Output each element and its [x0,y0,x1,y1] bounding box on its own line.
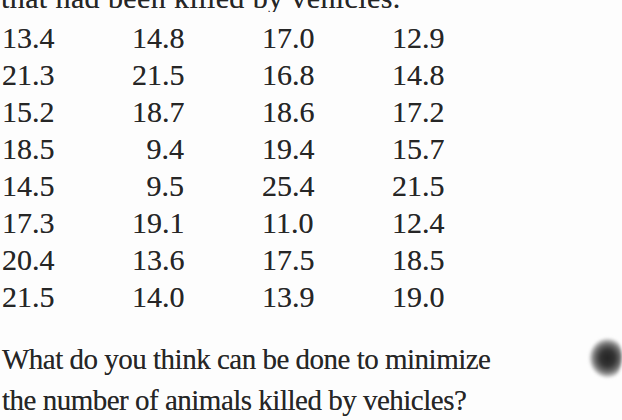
table-cell: 21.5 [392,167,522,204]
question-paragraph: What do you think can be done to minimiz… [2,339,491,420]
table-cell: 18.5 [392,241,522,278]
table-cell: 18.7 [132,93,262,130]
table-cell: 21.3 [2,56,132,93]
table-cell: 19.1 [132,204,262,241]
table-cell: 20.4 [2,241,132,278]
table-cell: 14.8 [392,56,522,93]
table-cell: 13.9 [262,278,392,315]
table-cell: 15.2 [2,93,132,130]
partial-sentence-text: that had been killed by vehicles. [1,0,401,12]
table-cell: 18.5 [2,130,132,167]
table-cell: 19.4 [262,130,392,167]
table-cell: 19.0 [392,278,522,315]
table-cell: 12.4 [392,204,522,241]
cropped-top-line: that had been killed by vehicles. [0,0,604,12]
question-line-1: What do you think can be done to minimiz… [2,339,491,380]
table-cell: 17.5 [262,241,392,278]
table-cell: 21.5 [132,56,262,93]
table-cell: 18.6 [262,93,392,130]
table-cell: 9.4 [132,130,262,167]
table-cell: 12.9 [392,19,522,56]
table-cell: 14.8 [132,19,262,56]
table-cell: 17.0 [262,19,392,56]
table-cell: 11.0 [262,204,392,241]
animal-photo-partial [584,334,622,384]
table-cell: 21.5 [2,278,132,315]
table-cell: 9.5 [132,167,262,204]
table-cell: 13.6 [132,241,262,278]
question-line-2: the number of animals killed by vehicles… [2,380,491,420]
table-cell: 16.8 [262,56,392,93]
data-table: 13.4 14.8 17.0 12.9 21.3 21.5 16.8 14.8 … [2,19,522,315]
table-cell: 25.4 [262,167,392,204]
table-cell: 13.4 [2,19,132,56]
table-cell: 14.5 [2,167,132,204]
table-cell: 15.7 [392,130,522,167]
table-cell: 17.2 [392,93,522,130]
table-cell: 17.3 [2,204,132,241]
table-cell: 14.0 [132,278,262,315]
